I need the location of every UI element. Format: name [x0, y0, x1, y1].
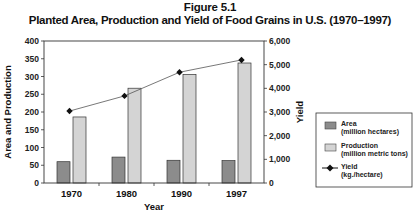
bar-area-1990	[167, 160, 180, 183]
y-right-axis-ticks: 01,0002,0003,0004,0005,0006,000	[264, 36, 291, 188]
y-right-tick-label: 3,000	[269, 107, 291, 117]
legend-unit-area: (million hectares)	[341, 128, 399, 136]
y-left-tick-label: 350	[25, 54, 39, 64]
y-right-tick-label: 0	[269, 178, 274, 188]
y-left-axis-label: Area and Production	[2, 65, 13, 159]
x-axis-categories: 1970198019901997	[61, 188, 247, 199]
y-left-axis-ticks: 050100150200250300350400	[25, 36, 44, 188]
y-left-tick-label: 200	[25, 107, 39, 117]
bar-series	[57, 63, 251, 183]
bar-production-1980	[128, 88, 141, 183]
yield-diamond-marker-icon	[121, 93, 127, 99]
legend-swatch-area	[325, 122, 336, 129]
x-category-label: 1997	[226, 188, 247, 199]
y-right-tick-label: 6,000	[269, 36, 291, 46]
y-right-tick-label: 2,000	[269, 131, 291, 141]
x-category-label: 1970	[61, 188, 82, 199]
bar-area-1970	[57, 162, 70, 183]
y-right-tick-label: 1,000	[269, 154, 291, 164]
bar-production-1997	[238, 63, 251, 183]
x-category-label: 1990	[171, 188, 192, 199]
y-left-tick-label: 150	[25, 125, 39, 135]
y-left-tick-label: 250	[25, 89, 39, 99]
legend-unit-production: (million metric tons)	[341, 150, 408, 158]
bar-production-1990	[183, 74, 196, 183]
legend-label-area: Area	[341, 120, 357, 127]
legend: Area (million hectares) Production (mill…	[316, 113, 412, 187]
yield-diamond-marker-icon	[238, 57, 244, 63]
yield-line-series	[66, 57, 244, 115]
bar-area-1997	[222, 161, 235, 183]
y-left-tick-label: 50	[30, 160, 40, 170]
y-left-tick-label: 100	[25, 143, 39, 153]
legend-swatch-production	[325, 144, 336, 151]
yield-diamond-marker-icon	[176, 69, 182, 75]
y-right-tick-label: 4,000	[269, 83, 291, 93]
y-right-axis-label: Yield	[294, 101, 305, 124]
x-axis-label: Year	[144, 201, 164, 212]
bar-area-1980	[112, 157, 125, 183]
legend-label-production: Production	[341, 142, 378, 149]
y-right-tick-label: 5,000	[269, 60, 291, 70]
y-left-tick-label: 0	[34, 178, 39, 188]
y-left-tick-label: 400	[25, 36, 39, 46]
y-left-tick-label: 300	[25, 72, 39, 82]
x-category-label: 1980	[116, 188, 137, 199]
legend-label-yield: Yield	[341, 163, 357, 170]
chart-area: 050100150200250300350400 01,0002,0003,00…	[0, 0, 420, 222]
bar-production-1970	[73, 117, 86, 183]
legend-unit-yield: (kg./hectare)	[341, 171, 383, 179]
yield-diamond-marker-icon	[66, 108, 72, 114]
